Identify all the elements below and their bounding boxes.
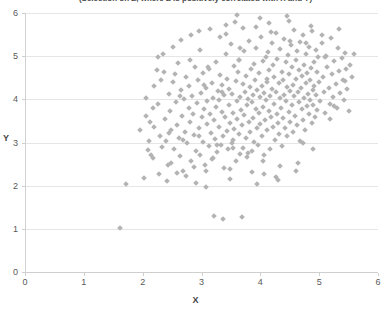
data-point (319, 40, 325, 46)
x-tick-label: 1 (75, 278, 93, 287)
data-point (338, 90, 344, 96)
data-point (333, 81, 339, 87)
x-tick-label: 5 (310, 278, 328, 287)
data-point (246, 38, 252, 44)
data-point (308, 65, 314, 71)
data-point (328, 116, 334, 122)
data-point (268, 30, 274, 36)
data-point (208, 130, 214, 136)
data-point (230, 110, 236, 116)
data-point (173, 99, 179, 105)
data-point (313, 47, 319, 53)
data-point (196, 28, 202, 34)
y-tick-label: 5 (2, 52, 18, 61)
data-point (196, 125, 202, 131)
data-point (342, 78, 348, 84)
data-point (179, 113, 185, 119)
data-point (287, 119, 293, 125)
data-point (279, 143, 285, 149)
data-point (280, 115, 286, 121)
data-point (197, 47, 203, 53)
data-point (182, 129, 188, 135)
data-point (300, 141, 306, 147)
y-axis-line (25, 13, 26, 272)
data-point (217, 34, 223, 40)
data-point (236, 131, 242, 137)
x-axis-title: X (0, 295, 391, 305)
data-point (207, 27, 213, 33)
data-point (215, 150, 221, 156)
data-point (239, 214, 245, 220)
data-point (155, 54, 161, 60)
data-point (203, 184, 209, 190)
data-point (199, 115, 205, 121)
data-point (219, 82, 225, 88)
data-point (300, 33, 306, 39)
x-tick-mark (84, 273, 85, 276)
data-point (213, 59, 219, 65)
data-point (235, 116, 241, 122)
data-point (277, 46, 283, 52)
x-tick-label: 2 (134, 278, 152, 287)
data-point (315, 107, 321, 113)
data-point (256, 110, 262, 116)
data-point (265, 128, 271, 134)
data-point (322, 110, 328, 116)
data-point (267, 147, 273, 153)
data-point (203, 169, 209, 175)
data-point (220, 134, 226, 140)
data-point (170, 44, 176, 50)
data-point (213, 104, 219, 110)
data-point (243, 135, 249, 141)
data-point (286, 71, 292, 77)
data-point (174, 122, 180, 128)
data-point (240, 25, 246, 31)
data-point (212, 213, 218, 219)
data-point (347, 62, 353, 68)
x-tick-label: 4 (251, 278, 269, 287)
y-tick-label: 4 (2, 95, 18, 104)
data-point (314, 69, 320, 75)
data-point (325, 64, 331, 70)
data-point (292, 93, 298, 99)
gridline-y (25, 229, 378, 230)
data-point (268, 114, 274, 120)
x-tick-mark (319, 273, 320, 276)
data-point (195, 100, 201, 106)
data-point (239, 122, 245, 128)
data-point (162, 116, 168, 122)
data-point (200, 139, 206, 145)
data-point (321, 89, 327, 95)
gridline-y (25, 13, 378, 14)
data-point (349, 74, 355, 80)
data-point (332, 59, 338, 65)
data-point (311, 59, 317, 65)
data-point (291, 27, 297, 33)
data-point (266, 21, 272, 27)
data-point (236, 57, 242, 63)
data-point (282, 92, 288, 98)
data-point (257, 15, 263, 21)
data-point (269, 40, 275, 46)
data-point (315, 55, 321, 61)
data-point (306, 44, 312, 50)
data-point (137, 127, 143, 133)
data-point (309, 120, 315, 126)
data-point (242, 89, 248, 95)
data-point (202, 106, 208, 112)
data-point (177, 153, 183, 159)
data-point (302, 127, 308, 133)
data-point (143, 113, 149, 119)
data-point (272, 74, 278, 80)
chart-title: (Selection on Z, where Z is positively c… (0, 0, 391, 3)
data-point (188, 32, 194, 38)
data-point (299, 106, 305, 112)
y-tick-mark (22, 13, 25, 14)
data-point (175, 60, 181, 66)
data-point (286, 109, 292, 115)
y-tick-mark (22, 186, 25, 187)
data-point (197, 152, 203, 158)
data-point (295, 160, 301, 166)
gridline-y (25, 99, 378, 100)
data-point (320, 74, 326, 80)
